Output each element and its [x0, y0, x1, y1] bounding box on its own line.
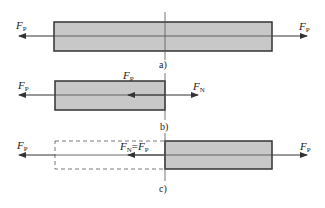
label-internal-force-c: FN=FP	[120, 141, 149, 154]
force-symbol: F	[18, 79, 25, 91]
force-subscript: P	[307, 146, 311, 154]
force-subscript: P	[130, 75, 134, 83]
label-left-force-c: FP	[17, 140, 28, 153]
figure-b	[19, 73, 198, 120]
force-symbol: F	[123, 69, 130, 81]
label-left-force-a: FP	[16, 20, 27, 33]
force-subscript: P	[23, 25, 27, 33]
label-top-force-b: FP	[123, 70, 134, 83]
force-symbol: F	[299, 20, 306, 32]
force-symbol: F	[17, 139, 24, 151]
force-subscript: P	[25, 85, 29, 93]
force-symbol: F	[300, 140, 307, 152]
force-symbol: F	[16, 19, 23, 31]
axial-force-diagram	[0, 0, 325, 208]
force-symbol: F	[193, 80, 200, 92]
force-symbol: F	[120, 140, 127, 152]
label-left-force-b: FP	[18, 80, 29, 93]
force-subscript: N	[200, 86, 205, 94]
figure-a	[19, 12, 307, 60]
caption-c: c)	[159, 184, 167, 194]
label-right-force-a: FP	[299, 21, 310, 34]
force-subscript: P	[306, 26, 310, 34]
caption-a: a)	[159, 60, 167, 70]
force-symbol: F	[138, 140, 145, 152]
figure-c	[19, 133, 307, 181]
force-subscript: P	[24, 145, 28, 153]
bar-a	[54, 22, 272, 51]
label-right-force-b: FN	[193, 81, 205, 94]
force-subscript: P	[145, 146, 149, 154]
caption-b: b)	[160, 122, 168, 132]
label-right-force-c: FP	[300, 141, 311, 154]
